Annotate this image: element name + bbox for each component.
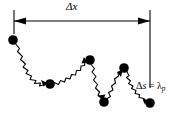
chain-node-group [8,35,155,108]
chain-node-2 [45,79,55,89]
delta-x-dimension-arrow [14,10,150,88]
delta-s-label: Δs = λp [136,81,165,93]
chain-segment-3 [91,65,102,99]
left-arrowhead-icon [14,18,26,25]
chain-node-4 [99,97,109,107]
chain-segment-1 [15,43,46,87]
polymer-chain-path [15,43,148,102]
delta-x-label: Δx [66,1,77,12]
chain-node-6 [145,98,155,108]
figure-container: Δx Δs = λp [0,0,185,119]
chain-node-1 [8,35,18,45]
chain-segment-2 [54,62,85,85]
right-arrowhead-icon [138,18,150,25]
figure-canvas [0,0,185,119]
lambda-subscript: p [162,85,166,93]
chain-node-3 [85,55,95,65]
delta-s-equals: = [146,80,157,91]
